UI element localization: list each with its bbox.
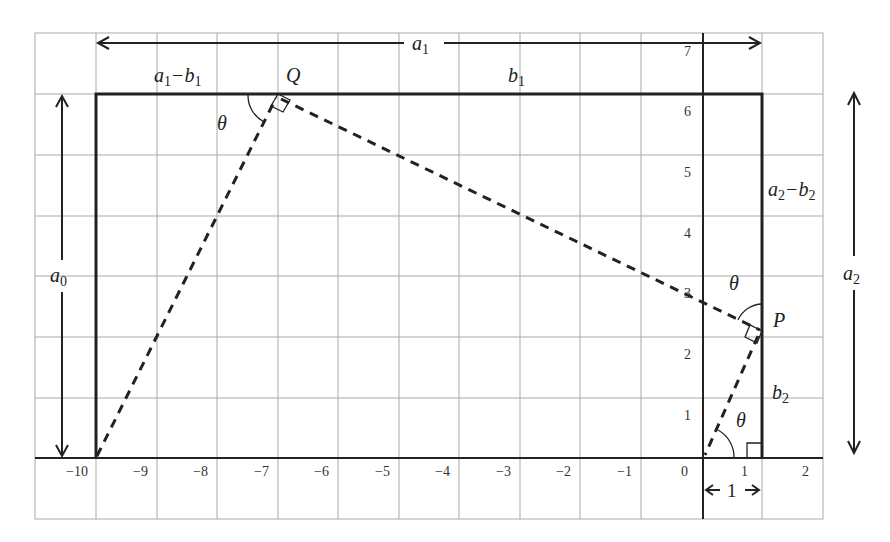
svg-text:−5: −5 <box>375 464 390 479</box>
x-tick-labels: −10 −9 −8 −7 −6 −5 −4 −3 −2 −1 0 1 2 <box>66 464 809 479</box>
label-a1: a1 <box>412 32 429 57</box>
svg-text:7: 7 <box>684 44 691 59</box>
svg-text:−6: −6 <box>314 464 329 479</box>
label-a0: a0 <box>50 264 67 289</box>
label-theta-Q: θ <box>217 112 227 134</box>
label-a1-minus-b1: a1−b1 <box>154 64 202 89</box>
label-theta-origin: θ <box>736 409 746 431</box>
unit-length-arrow: 1 <box>706 480 759 501</box>
svg-text:2: 2 <box>684 347 691 362</box>
angle-arc-Q <box>248 95 264 122</box>
a1-dimension-arrow <box>98 37 760 49</box>
svg-text:1: 1 <box>684 408 691 423</box>
dashed-segment-P-to-origin <box>705 336 758 455</box>
dashed-segment-left-to-Q <box>97 98 276 456</box>
angle-arc-origin <box>718 430 734 458</box>
label-b2: b2 <box>772 381 789 406</box>
label-point-Q: Q <box>286 64 301 86</box>
svg-text:−1: −1 <box>617 464 632 479</box>
label-b1: b1 <box>508 64 525 89</box>
y-tick-labels: 1 2 3 4 5 6 7 <box>684 44 691 423</box>
diagram-canvas: −10 −9 −8 −7 −6 −5 −4 −3 −2 −1 0 1 2 1 2… <box>0 0 890 542</box>
svg-text:0: 0 <box>681 464 688 479</box>
svg-text:−4: −4 <box>435 464 450 479</box>
right-angle-mark-P <box>745 325 762 343</box>
svg-text:−8: −8 <box>193 464 208 479</box>
svg-text:−2: −2 <box>556 464 571 479</box>
label-theta-P: θ <box>729 272 739 294</box>
svg-text:−3: −3 <box>496 464 511 479</box>
svg-text:4: 4 <box>684 226 691 241</box>
grid <box>35 33 823 519</box>
unit-label: 1 <box>727 480 737 501</box>
svg-text:−10: −10 <box>66 464 88 479</box>
svg-text:−7: −7 <box>254 464 269 479</box>
angle-arc-P <box>738 304 762 320</box>
svg-text:2: 2 <box>802 464 809 479</box>
right-angle-mark-base <box>747 443 762 458</box>
svg-text:6: 6 <box>684 104 691 119</box>
svg-text:−9: −9 <box>133 464 148 479</box>
label-a2: a2 <box>843 262 860 287</box>
svg-text:1: 1 <box>741 464 748 479</box>
svg-text:5: 5 <box>684 165 691 180</box>
label-point-P: P <box>772 309 785 331</box>
label-a2-minus-b2: a2−b2 <box>768 178 816 203</box>
